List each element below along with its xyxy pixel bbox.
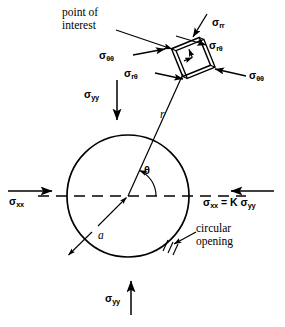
stress-analysis-figure: point of interest σrr σrθ σθθ σrθ σθθ σy… xyxy=(0,0,285,327)
circular-opening-hatch xyxy=(163,240,178,255)
circular-opening-line1: circular xyxy=(196,222,233,235)
sigma-rr-label: σrr xyxy=(212,17,225,29)
point-of-interest-leader xyxy=(116,30,172,49)
sigma-theta-theta-left-subscript: θθ xyxy=(106,54,114,63)
stress-element-shear-arrows xyxy=(181,49,193,61)
figure-vector-layer xyxy=(0,0,285,327)
point-of-interest-line2: interest xyxy=(62,19,98,32)
sigma-yy-factor-subscript: yy xyxy=(248,201,256,210)
sigma-r-theta-top-label: σrθ xyxy=(209,40,223,52)
sigma-yy-factor-symbol: σ xyxy=(240,196,247,208)
sigma-r-theta-bottom-label: σrθ xyxy=(124,68,138,80)
stress-element-outer-face xyxy=(171,37,210,76)
radius-label: a xyxy=(98,229,104,242)
sigma-theta-theta-left-label: σθθ xyxy=(99,50,114,62)
point-of-interest-line1: point of xyxy=(62,6,98,19)
theta-angle-label: θ xyxy=(144,164,150,176)
sigma-r-theta-bottom-arrow xyxy=(155,73,183,79)
sigma-theta-theta-left-arrow xyxy=(133,49,165,55)
circular-opening-line2: opening xyxy=(196,235,233,248)
radius-dimension-inner xyxy=(98,198,127,227)
sigma-yy-bottom-subscript: yy xyxy=(112,297,120,306)
sigma-r-theta-bottom-subscript: rθ xyxy=(131,72,137,81)
sigma-xx-right-equation-label: σxx = K σyy xyxy=(203,197,256,209)
sigma-theta-theta-right-subscript: θθ xyxy=(256,74,264,83)
sigma-yy-top-label: σyy xyxy=(84,89,99,101)
radial-distance-label: r xyxy=(160,108,164,121)
sigma-theta-theta-right-arrow xyxy=(215,69,246,76)
sigma-xx-left-subscript: xx xyxy=(16,200,24,209)
sigma-rr-arrow xyxy=(193,14,207,37)
sigma-xx-right-relation: = K xyxy=(218,196,240,208)
circular-opening-label: circular opening xyxy=(196,222,233,248)
sigma-yy-top-subscript: yy xyxy=(91,93,99,102)
sigma-xx-right-subscript: xx xyxy=(210,201,218,210)
sigma-theta-theta-right-label: σθθ xyxy=(249,70,264,82)
point-of-interest-label: point of interest xyxy=(62,6,98,32)
sigma-r-theta-top-subscript: rθ xyxy=(216,44,222,53)
circular-opening-leader xyxy=(174,232,196,244)
sigma-yy-bottom-label: σyy xyxy=(105,293,120,305)
sigma-rr-subscript: rr xyxy=(219,21,224,30)
sigma-xx-left-label: σxx xyxy=(9,196,24,208)
